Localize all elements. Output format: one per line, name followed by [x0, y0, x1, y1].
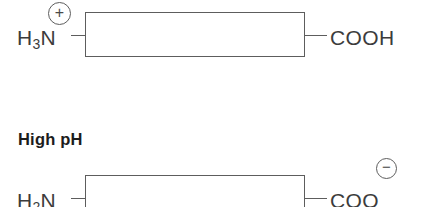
amino-acid-ionization-diagram: H3N + COOH High pH H2N COO − [0, 0, 421, 207]
bond-amino-to-chain-acidic [71, 35, 86, 36]
amino-formula-main: H [17, 26, 33, 49]
amino-formula-main-basic: H [17, 189, 33, 207]
carboxyl-terminus-label-basic: COO [330, 190, 379, 207]
plus-charge-icon: + [48, 2, 71, 25]
minus-charge-icon: − [376, 158, 397, 179]
minus-charge-glyph: − [382, 159, 391, 174]
amino-formula-tail-basic: N [40, 189, 56, 207]
ph-heading-high: High pH [18, 131, 83, 148]
amino-terminus-label-acidic: H3N [17, 27, 56, 51]
amino-terminus-label-basic: H2N [17, 190, 56, 207]
bond-chain-to-carboxyl-acidic [305, 35, 327, 36]
carboxyl-terminus-label-acidic: COOH [330, 27, 395, 48]
amino-formula-tail: N [40, 26, 56, 49]
peptide-chain-box-basic [85, 175, 305, 207]
bond-chain-to-carboxyl-basic [305, 198, 327, 199]
bond-amino-to-chain-basic [71, 198, 86, 199]
peptide-chain-box-acidic [85, 12, 305, 57]
plus-charge-glyph: + [55, 5, 64, 21]
